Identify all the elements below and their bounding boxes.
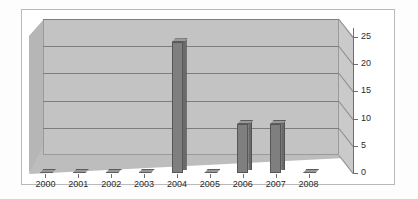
gridline — [43, 101, 339, 102]
y-axis-tick — [353, 173, 358, 174]
bar-2004 — [172, 38, 183, 173]
gridline — [43, 73, 339, 74]
x-axis-label-2008: 2008 — [299, 180, 319, 189]
gridline — [43, 19, 339, 20]
y-axis-label: 25 — [361, 32, 371, 41]
x-axis-tick — [111, 174, 112, 178]
x-axis-tick — [309, 174, 310, 178]
y-axis-tick — [353, 119, 358, 120]
x-axis-tick — [45, 174, 46, 178]
plot-back-wall — [43, 19, 339, 155]
x-axis-tick — [78, 174, 79, 178]
bar-side-face — [248, 120, 252, 170]
chart-screenshot: 0510152025 20002001200220032004200520062… — [0, 0, 418, 199]
bar-2007 — [270, 120, 281, 173]
x-axis-label-2000: 2000 — [35, 180, 55, 189]
x-axis-label-2003: 2003 — [134, 180, 154, 189]
gridline — [43, 46, 339, 47]
bar-top-face — [139, 169, 155, 173]
bar-chart-plot-area: 0510152025 20002001200220032004200520062… — [22, 10, 372, 175]
x-axis-label-2004: 2004 — [167, 180, 187, 189]
bar-side-face — [183, 38, 187, 170]
y-axis-label: 0 — [361, 168, 366, 177]
x-axis-tick — [210, 174, 211, 178]
bar-front-face — [237, 124, 248, 173]
x-axis-label-2001: 2001 — [68, 180, 88, 189]
bar-top-face — [106, 169, 122, 173]
x-axis-tick — [276, 174, 277, 178]
bar-2003 — [139, 169, 150, 173]
plot-right-wall — [339, 19, 353, 173]
bar-top-face — [204, 169, 220, 173]
bar-top-face — [303, 169, 319, 173]
y-axis-label: 15 — [361, 86, 371, 95]
bar-2008 — [303, 169, 314, 173]
bar-top-face — [73, 169, 89, 173]
y-axis-tick — [353, 91, 358, 92]
x-axis-tick — [177, 174, 178, 178]
y-axis-label: 10 — [361, 114, 371, 123]
y-axis-label: 20 — [361, 59, 371, 68]
bar-front-face — [172, 42, 183, 173]
bar-2001 — [73, 169, 84, 173]
x-axis-label-2006: 2006 — [233, 180, 253, 189]
x-axis-label-2005: 2005 — [200, 180, 220, 189]
y-axis-tick — [353, 37, 358, 38]
bar-side-face — [281, 120, 285, 170]
x-axis-label-2007: 2007 — [266, 180, 286, 189]
bar-2002 — [106, 169, 117, 173]
x-axis-tick — [243, 174, 244, 178]
gridline — [43, 128, 339, 129]
bar-2005 — [204, 169, 215, 173]
y-axis-tick — [353, 64, 358, 65]
bar-2000 — [40, 169, 51, 173]
bar-2006 — [237, 120, 248, 173]
x-axis-label-2002: 2002 — [101, 180, 121, 189]
y-axis-tick — [353, 146, 358, 147]
x-axis-tick — [144, 174, 145, 178]
y-axis-label: 5 — [361, 141, 366, 150]
y-axis-line — [353, 28, 354, 174]
bar-front-face — [270, 124, 281, 173]
